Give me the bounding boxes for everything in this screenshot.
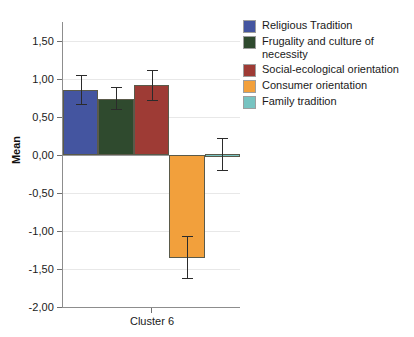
y-axis-tick-label: 1,50 [32, 35, 54, 47]
error-bar-cap-upper [217, 138, 228, 139]
y-axis-tick [57, 193, 62, 194]
legend: Religious TraditionFrugality and culture… [243, 19, 414, 111]
y-axis-tick [57, 269, 62, 270]
error-bar-cap-lower [217, 170, 228, 171]
error-bar-stem [81, 75, 82, 104]
x-axis-category-label: Cluster 6 [130, 315, 174, 327]
error-bar-cap-lower [111, 109, 122, 110]
y-axis-tick-label: 0,50 [32, 111, 54, 123]
error-bar-stem [116, 87, 117, 109]
error-bar-cap-upper [147, 70, 158, 71]
legend-item-label: Religious Tradition [262, 19, 353, 32]
error-bar-cap-upper [182, 236, 193, 237]
bar-chart: Mean 1,501,000,500,00-0,50-1,00-1,50-2,0… [0, 0, 414, 337]
y-axis-tick [57, 41, 62, 42]
legend-item-label: Family tradition [262, 95, 337, 108]
y-axis-tick [57, 117, 62, 118]
legend-swatch [243, 80, 256, 93]
legend-item[interactable]: Social-ecological orientation [243, 63, 414, 77]
y-axis-tick [57, 231, 62, 232]
legend-item-label: Consumer orientation [262, 79, 367, 92]
legend-swatch [243, 64, 256, 77]
error-bar-cap-upper [76, 75, 87, 76]
error-bar-cap-upper [111, 87, 122, 88]
y-axis-tick-label: -0,50 [28, 187, 54, 199]
y-axis-tick-label: -2,00 [28, 301, 54, 313]
gridline [63, 41, 240, 42]
y-axis-tick [57, 307, 62, 308]
legend-swatch [243, 96, 256, 109]
y-axis-title: Mean [10, 136, 22, 164]
error-bar-stem [152, 70, 153, 100]
legend-item[interactable]: Religious Tradition [243, 19, 414, 33]
legend-item[interactable]: Frugality and culture of necessity [243, 35, 414, 61]
legend-swatch [243, 20, 256, 33]
y-axis-tick-label: -1,50 [28, 263, 54, 275]
error-bar-cap-lower [147, 100, 158, 101]
y-axis-tick-label: 0,00 [32, 149, 54, 161]
x-axis-tick [151, 308, 152, 313]
y-axis-tick-label: -1,00 [28, 225, 54, 237]
legend-item[interactable]: Family tradition [243, 95, 414, 109]
error-bar-stem [187, 236, 188, 279]
legend-item-label: Frugality and culture of necessity [262, 35, 374, 61]
error-bar-cap-lower [182, 278, 193, 279]
y-axis-tick-label: 1,00 [32, 73, 54, 85]
gridline [63, 269, 240, 270]
y-axis-line [62, 22, 63, 307]
legend-swatch [243, 36, 256, 49]
gridline [63, 231, 240, 232]
y-axis-tick [57, 79, 62, 80]
error-bar-stem [222, 138, 223, 170]
plot-area: 1,501,000,500,00-0,50-1,00-1,50-2,00 [62, 22, 240, 307]
error-bar-cap-lower [76, 104, 87, 105]
y-axis-tick [57, 155, 62, 156]
legend-item[interactable]: Consumer orientation [243, 79, 414, 93]
gridline [63, 193, 240, 194]
legend-item-label: Social-ecological orientation [262, 63, 399, 76]
